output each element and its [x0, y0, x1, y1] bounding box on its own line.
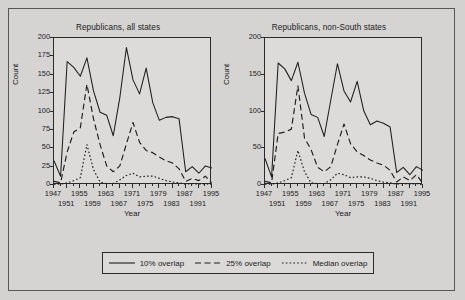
x-tick-label: 1991: [394, 199, 424, 208]
chart-panel-all-states: Republicans, all states Count 0255075100…: [15, 23, 221, 228]
y-tick-label: 25: [42, 161, 50, 170]
series-line: [54, 48, 212, 177]
y-tick-label: 50: [42, 142, 50, 151]
x-tick-mark: [158, 184, 159, 188]
y-axis-label: Count: [222, 64, 231, 85]
legend-item[interactable]: Median overlap: [282, 259, 368, 268]
y-tick-label: 175: [38, 50, 50, 59]
y-tick-mark: [261, 147, 265, 148]
x-tick-mark-minor: [389, 184, 390, 186]
x-tick-mark-minor: [191, 184, 192, 186]
x-axis-label: Year: [264, 209, 422, 218]
y-tick-mark: [50, 166, 54, 167]
legend-label: Median overlap: [313, 259, 368, 268]
series-lines: [265, 38, 423, 185]
x-tick-mark-minor: [204, 184, 205, 186]
x-tick-mark-minor: [165, 184, 166, 186]
x-tick-mark: [356, 184, 357, 188]
y-tick-label: 200: [38, 32, 50, 41]
y-tick-mark: [50, 37, 54, 38]
y-tick-mark: [50, 147, 54, 148]
y-tick-label: 150: [249, 69, 261, 78]
y-tick-label: 150: [38, 69, 50, 78]
y-tick-label: 100: [249, 106, 261, 115]
legend-line-swatch-dotted: [282, 259, 308, 267]
x-tick-mark: [277, 184, 278, 188]
x-tick-mark: [343, 184, 344, 188]
legend-item[interactable]: 25% overlap: [195, 259, 270, 268]
x-tick-mark-minor: [86, 184, 87, 186]
y-tick-label: 200: [249, 32, 261, 41]
x-tick-mark-minor: [125, 184, 126, 186]
x-tick-mark-minor: [323, 184, 324, 186]
x-tick-mark-minor: [152, 184, 153, 186]
y-tick-mark: [261, 184, 265, 185]
y-axis-ticks: 050100150200: [234, 37, 261, 184]
x-tick-label: 1995: [196, 189, 226, 198]
y-axis-label: Count: [11, 64, 20, 85]
y-tick-mark: [50, 129, 54, 130]
x-tick-label: 1991: [183, 199, 213, 208]
x-tick-mark: [422, 184, 423, 188]
y-tick-mark: [50, 74, 54, 75]
x-tick-mark: [145, 184, 146, 188]
y-tick-mark: [50, 92, 54, 93]
x-tick-mark: [93, 184, 94, 188]
chart-legend: 10% overlap25% overlapMedian overlap: [102, 252, 374, 274]
y-tick-mark: [50, 111, 54, 112]
x-tick-mark-minor: [178, 184, 179, 186]
legend-label: 25% overlap: [226, 259, 270, 268]
x-tick-mark-minor: [297, 184, 298, 186]
chart-panel-non-south-states: Republicans, non-South states Count 0501…: [226, 23, 432, 228]
x-tick-mark-minor: [310, 184, 311, 186]
x-tick-mark: [172, 184, 173, 188]
y-tick-mark: [50, 55, 54, 56]
y-tick-label: 125: [38, 87, 50, 96]
series-line: [265, 86, 423, 184]
y-tick-mark: [261, 111, 265, 112]
series-line: [54, 145, 212, 185]
x-tick-mark-minor: [350, 184, 351, 186]
x-tick-mark: [409, 184, 410, 188]
x-tick-mark: [119, 184, 120, 188]
legend-line-swatch-solid: [109, 259, 135, 267]
x-tick-mark-minor: [112, 184, 113, 186]
y-tick-label: 50: [253, 142, 261, 151]
x-tick-mark: [330, 184, 331, 188]
x-tick-mark-minor: [376, 184, 377, 186]
x-tick-mark: [106, 184, 107, 188]
y-axis-ticks: 0255075100125150175200: [23, 37, 50, 184]
plot-area: [53, 37, 211, 184]
x-tick-mark: [132, 184, 133, 188]
x-tick-mark: [383, 184, 384, 188]
x-tick-mark-minor: [415, 184, 416, 186]
x-tick-mark-minor: [284, 184, 285, 186]
panel-title: Republicans, all states: [15, 23, 221, 32]
series-line: [54, 84, 212, 183]
y-tick-mark: [261, 74, 265, 75]
legend-label: 10% overlap: [140, 259, 184, 268]
x-tick-label: 1995: [407, 189, 437, 198]
legend-item[interactable]: 10% overlap: [109, 259, 184, 268]
y-tick-mark: [50, 184, 54, 185]
x-tick-mark-minor: [73, 184, 74, 186]
plot-area: [264, 37, 422, 184]
panel-title: Republicans, non-South states: [226, 23, 432, 32]
x-tick-mark: [317, 184, 318, 188]
x-tick-mark-minor: [99, 184, 100, 186]
x-tick-mark-minor: [60, 184, 61, 186]
x-axis-label: Year: [53, 209, 211, 218]
x-tick-mark-minor: [271, 184, 272, 186]
x-tick-mark: [369, 184, 370, 188]
y-tick-mark: [261, 37, 265, 38]
x-tick-mark: [290, 184, 291, 188]
figure-frame: Republicans, all states Count 0255075100…: [8, 8, 455, 291]
x-tick-mark-minor: [139, 184, 140, 186]
x-tick-mark-minor: [402, 184, 403, 186]
x-tick-mark: [79, 184, 80, 188]
x-tick-mark-minor: [363, 184, 364, 186]
y-tick-label: 75: [42, 124, 50, 133]
y-tick-label: 100: [38, 106, 50, 115]
series-lines: [54, 38, 212, 185]
series-line: [265, 62, 423, 177]
